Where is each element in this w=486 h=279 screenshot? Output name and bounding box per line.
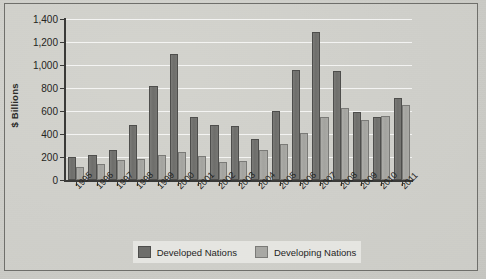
- bar-group: [210, 19, 226, 180]
- bar-developed-1999[interactable]: [149, 86, 157, 180]
- legend-swatch-icon: [138, 246, 151, 258]
- bar-developed-2001[interactable]: [190, 117, 198, 180]
- bar-developed-2010[interactable]: [373, 117, 381, 180]
- y-axis-tick-label: 0: [0, 175, 58, 186]
- bar-developing-2009[interactable]: [361, 120, 369, 180]
- bar-developing-2011[interactable]: [402, 105, 410, 180]
- y-axis-tick-label: 1,400: [0, 14, 58, 25]
- y-axis-tick-label: 600: [0, 106, 58, 117]
- bar-group: [149, 19, 165, 180]
- bar-group: [353, 19, 369, 180]
- x-axis-labels: 1995199619971998199920002001200220032004…: [66, 182, 412, 226]
- plot-area: [66, 19, 412, 180]
- bar-developed-2009[interactable]: [353, 112, 361, 180]
- chart-legend: Developed NationsDeveloping Nations: [133, 241, 361, 263]
- bar-developed-2000[interactable]: [170, 54, 178, 181]
- bar-group: [312, 19, 328, 180]
- legend-swatch-icon: [255, 246, 268, 258]
- y-axis-tick: [60, 180, 65, 181]
- y-axis-tick: [60, 111, 65, 112]
- y-axis-labels: 02004006008001,0001,2001,400: [0, 0, 58, 279]
- y-axis-tick-label: 400: [0, 129, 58, 140]
- legend-item-developed[interactable]: Developed Nations: [138, 246, 237, 258]
- bar-group: [231, 19, 247, 180]
- y-axis-tick-label: 800: [0, 83, 58, 94]
- bar-developed-2005[interactable]: [272, 111, 280, 180]
- bar-group: [129, 19, 145, 180]
- y-axis-tick: [60, 42, 65, 43]
- bar-developed-2011[interactable]: [394, 98, 402, 180]
- bar-developed-2008[interactable]: [333, 71, 341, 180]
- y-axis-tick: [60, 88, 65, 89]
- bar-group: [170, 19, 186, 180]
- bar-group: [333, 19, 349, 180]
- y-axis-tick: [60, 65, 65, 66]
- bar-group: [272, 19, 288, 180]
- chart-page: $ Billions 02004006008001,0001,2001,400 …: [0, 0, 486, 279]
- bar-group: [109, 19, 125, 180]
- bar-group: [394, 19, 410, 180]
- bar-group: [190, 19, 206, 180]
- y-axis-tick-label: 1,200: [0, 37, 58, 48]
- legend-item-developing[interactable]: Developing Nations: [255, 246, 356, 258]
- y-axis-tick: [60, 134, 65, 135]
- legend-label: Developed Nations: [157, 247, 237, 258]
- bar-developed-2007[interactable]: [312, 32, 320, 180]
- bar-developing-2007[interactable]: [320, 117, 328, 180]
- bar-group: [68, 19, 84, 180]
- bar-developing-2008[interactable]: [341, 108, 349, 180]
- y-axis-tick-label: 200: [0, 152, 58, 163]
- bar-group: [88, 19, 104, 180]
- bar-group: [373, 19, 389, 180]
- bar-developed-2006[interactable]: [292, 70, 300, 180]
- bar-developed-1995[interactable]: [68, 157, 76, 180]
- y-axis-tick: [60, 157, 65, 158]
- bar-developing-2010[interactable]: [381, 116, 389, 180]
- bar-group: [251, 19, 267, 180]
- y-axis-tick: [60, 19, 65, 20]
- legend-label: Developing Nations: [274, 247, 356, 258]
- bar-group: [292, 19, 308, 180]
- y-axis-tick-label: 1,000: [0, 60, 58, 71]
